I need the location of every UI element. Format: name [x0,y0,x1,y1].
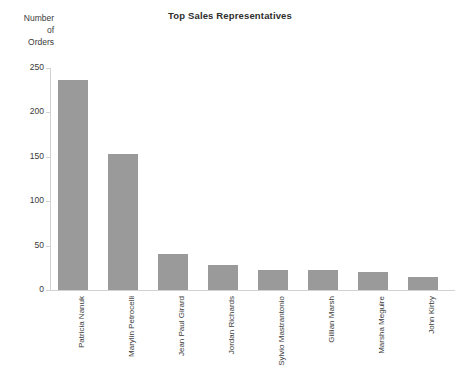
x-axis-category-label: Patricia Nanuk [77,296,86,348]
bar [358,272,388,290]
y-axis-label-line-2: of [4,24,54,36]
bar [58,80,88,290]
y-axis-line [50,68,51,290]
y-tick-label: 100 [30,195,44,205]
chart-title: Top Sales Representatives [0,10,460,21]
bar [108,154,138,290]
x-axis-category-label: Gillian Marsh [327,296,336,343]
y-axis-label-line-1: Number [4,12,54,24]
y-tick-mark [46,68,50,69]
y-tick-mark [46,246,50,247]
y-axis-label-line-3: Orders [4,36,54,48]
bar [308,270,338,290]
y-tick-mark [46,112,50,113]
bar [158,254,188,290]
y-tick-label: 200 [30,106,44,116]
y-tick-label: 50 [35,240,44,250]
y-tick-mark [46,201,50,202]
x-axis-category-label: Jordan Richards [227,296,236,354]
y-tick-label: 150 [30,151,44,161]
x-axis-category-label: Jean Paul Girard [177,296,186,356]
y-tick-label: 0 [39,284,44,294]
plot-area: 050100150200250 [50,68,455,290]
bar [208,265,238,290]
x-axis-category-label: Marsha Meguire [377,296,386,354]
x-axis-category-label: Marylin Petrocelli [127,296,136,357]
x-axis-category-label: Sylvio Mastrantonio [277,296,286,366]
bar [408,277,438,290]
y-tick-mark [46,290,50,291]
bar-chart: Top Sales Representatives Number of Orde… [0,0,460,389]
bar [258,270,288,290]
y-tick-label: 250 [30,62,44,72]
y-axis-label: Number of Orders [4,12,54,48]
x-axis-category-label: John Kirby [427,296,436,334]
x-axis-line [50,290,455,291]
y-tick-mark [46,157,50,158]
